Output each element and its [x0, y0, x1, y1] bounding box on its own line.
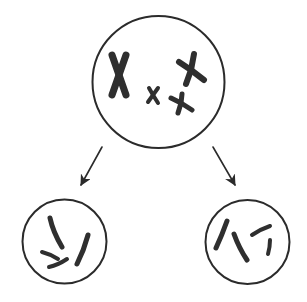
- medium-chromosome: [171, 94, 192, 113]
- daughter-cells: [23, 200, 290, 285]
- centromere: [179, 101, 183, 105]
- parent-cell: [93, 16, 225, 148]
- single-chromosome: [42, 252, 58, 259]
- large-chromosome: [112, 55, 126, 95]
- single-chromosome: [216, 221, 227, 248]
- arrow-to-left-daughter: [81, 147, 102, 185]
- daughter-cell-membrane: [23, 200, 107, 284]
- right-daughter-cell: [206, 200, 290, 284]
- centromere: [117, 73, 122, 78]
- small-chromosome: [148, 88, 158, 103]
- centromere: [189, 68, 193, 72]
- upper-right-chromosome: [179, 54, 204, 84]
- single-chromosome: [77, 235, 88, 264]
- single-chromosome: [252, 226, 270, 235]
- single-chromosome: [234, 234, 247, 260]
- arrow-to-right-daughter: [213, 147, 235, 185]
- centromere: [152, 94, 155, 97]
- division-arrows: [81, 147, 235, 185]
- single-chromosome: [268, 240, 270, 254]
- single-chromosome: [50, 218, 62, 247]
- cell-division-diagram: [0, 0, 307, 302]
- left-daughter-cell: [23, 200, 107, 284]
